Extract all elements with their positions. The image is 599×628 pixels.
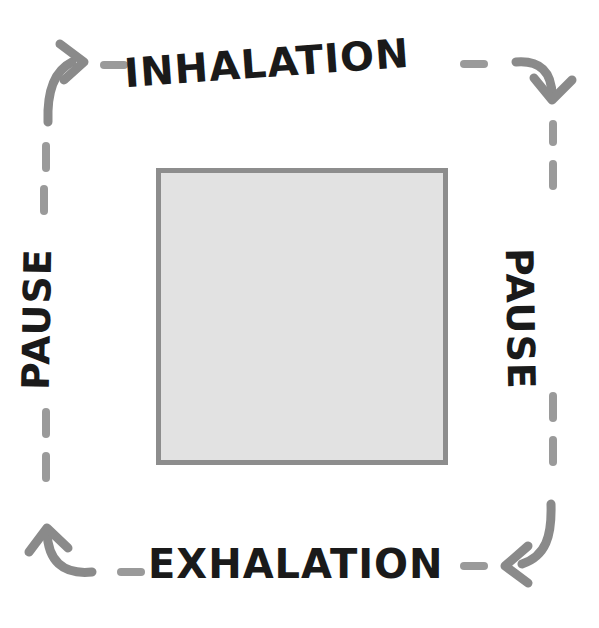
- breath-hold-square: [156, 168, 448, 465]
- label-pause-right-text: PAUSE: [500, 248, 540, 390]
- label-inhalation: INHALATION: [124, 41, 410, 86]
- arrow-bottom-right-icon: [505, 504, 551, 583]
- label-pause-right: PAUSE: [501, 239, 542, 400]
- breathing-cycle-diagram: INHALATION EXHALATION PAUSE PAUSE: [0, 0, 599, 628]
- arrow-top-left-icon: [48, 44, 84, 122]
- label-exhalation-text: EXHALATION: [148, 544, 444, 584]
- label-pause-left-text: PAUSE: [17, 248, 57, 390]
- arrow-bottom-left-icon: [29, 528, 92, 572]
- label-pause-left: PAUSE: [16, 239, 57, 400]
- label-exhalation: EXHALATION: [147, 538, 444, 593]
- arrow-top-right-icon: [516, 62, 572, 100]
